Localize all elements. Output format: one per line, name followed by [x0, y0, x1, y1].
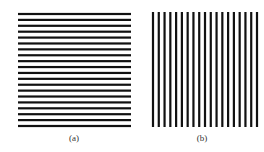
horizontal-line — [18, 54, 131, 56]
vertical-line — [181, 12, 183, 127]
vertical-line — [158, 12, 160, 127]
horizontal-line — [18, 78, 131, 80]
vertical-line — [227, 12, 229, 127]
horizontal-line — [18, 84, 131, 86]
horizontal-line — [18, 13, 131, 15]
vertical-line — [204, 12, 206, 127]
horizontal-line — [18, 119, 131, 121]
vertical-grating-panel — [152, 12, 258, 127]
grating-patterns — [0, 0, 264, 152]
horizontal-grating-panel — [18, 13, 131, 127]
vertical-line — [215, 12, 217, 127]
horizontal-line — [18, 107, 131, 109]
vertical-line — [250, 12, 252, 127]
vertical-line — [233, 12, 235, 127]
horizontal-line — [18, 42, 131, 44]
caption-a: (a) — [54, 133, 94, 143]
horizontal-line — [18, 125, 131, 127]
caption-b: (b) — [182, 133, 222, 143]
vertical-line — [221, 12, 223, 127]
vertical-line — [187, 12, 189, 127]
vertical-line — [239, 12, 241, 127]
vertical-line — [256, 12, 258, 127]
vertical-line — [152, 12, 154, 127]
horizontal-line — [18, 60, 131, 62]
horizontal-line — [18, 48, 131, 50]
horizontal-line — [18, 90, 131, 92]
horizontal-line — [18, 101, 131, 103]
vertical-line — [175, 12, 177, 127]
vertical-line — [163, 12, 165, 127]
horizontal-line — [18, 36, 131, 38]
vertical-line — [169, 12, 171, 127]
horizontal-line — [18, 113, 131, 115]
horizontal-line — [18, 66, 131, 68]
horizontal-line — [18, 95, 131, 97]
vertical-line — [244, 12, 246, 127]
vertical-line — [210, 12, 212, 127]
horizontal-line — [18, 31, 131, 33]
horizontal-line — [18, 19, 131, 21]
vertical-line — [192, 12, 194, 127]
horizontal-line — [18, 25, 131, 27]
horizontal-line — [18, 72, 131, 74]
vertical-line — [198, 12, 200, 127]
